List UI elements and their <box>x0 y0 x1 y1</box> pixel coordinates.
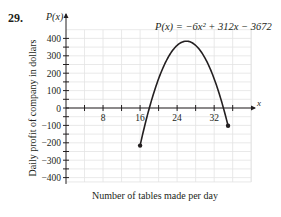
y-axis-label: Daily profit of company in dollars <box>27 39 38 176</box>
y-axis-name: P(x) <box>45 11 64 23</box>
svg-text:−400: −400 <box>41 173 61 183</box>
svg-text:200: 200 <box>47 69 62 79</box>
x-axis-name: x <box>256 98 261 108</box>
endpoint-dot <box>226 124 230 128</box>
endpoint-dot <box>138 143 142 147</box>
svg-text:300: 300 <box>47 51 62 61</box>
svg-text:8: 8 <box>101 113 106 123</box>
equation-label: P(x) = −6x² + 312x − 3672 <box>154 21 272 33</box>
svg-text:400: 400 <box>47 34 62 44</box>
svg-text:32: 32 <box>209 113 219 123</box>
x-axis-label: Number of tables made per day <box>92 190 218 201</box>
svg-text:−200: −200 <box>41 138 61 148</box>
profit-parabola-chart: 4003002001000−100−200−300−4008162432 P(x… <box>0 0 281 217</box>
curve-endpoints <box>138 124 230 148</box>
svg-text:−300: −300 <box>41 156 61 166</box>
profit-curve <box>140 41 228 145</box>
svg-text:24: 24 <box>172 113 182 123</box>
svg-text:0: 0 <box>56 104 61 114</box>
svg-text:16: 16 <box>135 113 145 123</box>
svg-text:100: 100 <box>47 86 62 96</box>
svg-text:−100: −100 <box>41 121 61 131</box>
